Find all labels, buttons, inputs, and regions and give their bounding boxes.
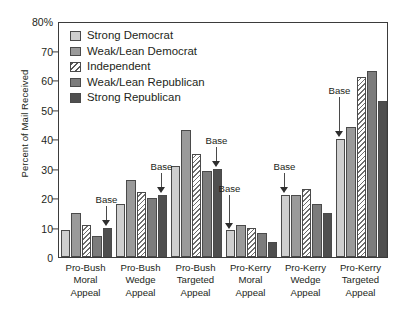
arrow-down-icon — [225, 223, 233, 229]
bar-group — [336, 23, 388, 257]
base-annotation-label: Base — [206, 135, 228, 146]
legend-swatch-icon — [70, 62, 81, 72]
legend-item-label: Weak/Lean Republican — [87, 75, 205, 91]
legend-swatch-icon — [70, 31, 81, 41]
bar — [346, 127, 355, 257]
x-axis-label-line: Pro-Kerry — [323, 262, 399, 274]
bar — [192, 154, 201, 257]
arrow-down-icon — [102, 220, 110, 226]
bar — [158, 195, 167, 257]
y-axis-tick-label: 50 — [13, 105, 53, 117]
base-annotation-label: Base — [274, 161, 296, 172]
bar — [181, 130, 190, 257]
legend-item: Strong Republican — [70, 90, 205, 106]
bar — [302, 189, 311, 257]
y-axis-tick-label: 10 — [13, 223, 53, 235]
y-axis-title: Percent of Mail Received — [19, 39, 30, 209]
chart-legend: Strong DemocratWeak/Lean DemocratIndepen… — [70, 28, 205, 106]
bar — [126, 180, 135, 257]
arrow-stem-icon — [229, 195, 230, 223]
arrow-stem-icon — [161, 173, 162, 187]
bar — [71, 213, 80, 257]
arrow-stem-icon — [216, 147, 217, 161]
y-axis-tick-label: 80% — [13, 16, 53, 28]
bar — [202, 171, 211, 257]
bar — [247, 228, 256, 258]
bar — [291, 195, 300, 257]
bar — [147, 198, 156, 257]
bar — [236, 225, 245, 257]
y-axis-tick-label: 20 — [13, 193, 53, 205]
bar — [226, 230, 235, 257]
bar — [367, 71, 376, 257]
bar — [116, 204, 125, 257]
legend-item: Weak/Lean Democrat — [70, 44, 205, 60]
base-annotation-label: Base — [96, 194, 118, 205]
x-axis-label-line: Targeted — [323, 274, 399, 286]
legend-swatch-icon — [70, 78, 81, 88]
bar — [336, 139, 345, 257]
arrow-stem-icon — [339, 97, 340, 131]
legend-item-label: Independent — [87, 59, 150, 75]
legend-item: Weak/Lean Republican — [70, 75, 205, 91]
arrow-down-icon — [212, 161, 220, 167]
bar — [92, 236, 101, 257]
legend-item-label: Weak/Lean Democrat — [87, 44, 197, 60]
arrow-stem-icon — [284, 173, 285, 187]
bar — [357, 77, 366, 257]
y-axis-tick-label: 60 — [13, 75, 53, 87]
base-annotation-label: Base — [151, 161, 173, 172]
bar-chart: Percent of Mail Received 010203040506070… — [0, 0, 400, 312]
bar — [171, 166, 180, 257]
y-axis-tick-label: 30 — [13, 164, 53, 176]
bar — [257, 233, 266, 257]
y-axis-tick-label: 70 — [13, 46, 53, 58]
bar-group — [281, 23, 333, 257]
legend-item-label: Strong Republican — [87, 90, 181, 106]
legend-swatch-icon — [70, 93, 81, 103]
x-axis-label-line: Appeal — [323, 287, 399, 299]
y-axis-tick-label: 40 — [13, 134, 53, 146]
arrow-down-icon — [335, 131, 343, 137]
legend-item: Strong Democrat — [70, 28, 205, 44]
x-axis-label: Pro-KerryTargetedAppeal — [323, 262, 399, 299]
bar — [268, 242, 277, 257]
bar — [82, 225, 91, 257]
legend-swatch-icon — [70, 47, 81, 57]
legend-item: Independent — [70, 59, 205, 75]
bar — [378, 101, 387, 257]
base-annotation-label: Base — [329, 85, 351, 96]
bar — [281, 195, 290, 257]
arrow-down-icon — [280, 187, 288, 193]
legend-item-label: Strong Democrat — [87, 28, 173, 44]
bar — [137, 192, 146, 257]
bar — [61, 230, 70, 257]
bar — [103, 228, 112, 258]
bar — [312, 204, 321, 257]
arrow-down-icon — [157, 187, 165, 193]
bar-group — [226, 23, 278, 257]
arrow-stem-icon — [106, 206, 107, 220]
base-annotation-label: Base — [219, 183, 241, 194]
bar — [323, 213, 332, 257]
